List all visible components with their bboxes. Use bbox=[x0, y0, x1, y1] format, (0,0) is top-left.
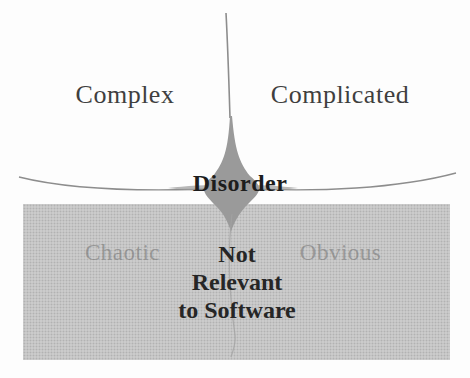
not-relevant-text: Not Relevant to Software bbox=[157, 240, 317, 324]
cynefin-diagram: Complex Complicated Disorder Chaotic Obv… bbox=[0, 0, 470, 378]
center-label-disorder: Disorder bbox=[165, 170, 315, 197]
not-relevant-line2: Relevant bbox=[157, 268, 317, 296]
quadrant-label-complex: Complex bbox=[40, 80, 210, 110]
quadrant-label-complicated: Complicated bbox=[255, 80, 425, 110]
not-relevant-line1: Not bbox=[157, 240, 317, 268]
vertical-divider-curve bbox=[226, 13, 230, 118]
not-relevant-line3: to Software bbox=[157, 296, 317, 324]
